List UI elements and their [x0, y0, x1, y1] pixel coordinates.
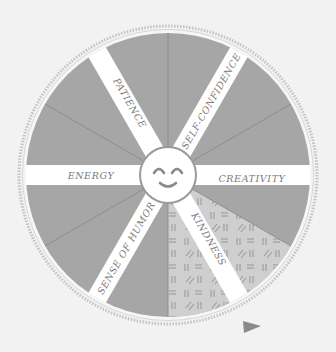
play-triangle-icon [243, 321, 261, 333]
spinning-wheel[interactable]: ENERGY CREATIVITY PATIENCE SELF-CONFIDEN… [0, 0, 336, 352]
center-hub[interactable] [140, 147, 196, 203]
label-energy: ENERGY [67, 170, 116, 181]
label-creativity: CREATIVITY [218, 173, 286, 184]
